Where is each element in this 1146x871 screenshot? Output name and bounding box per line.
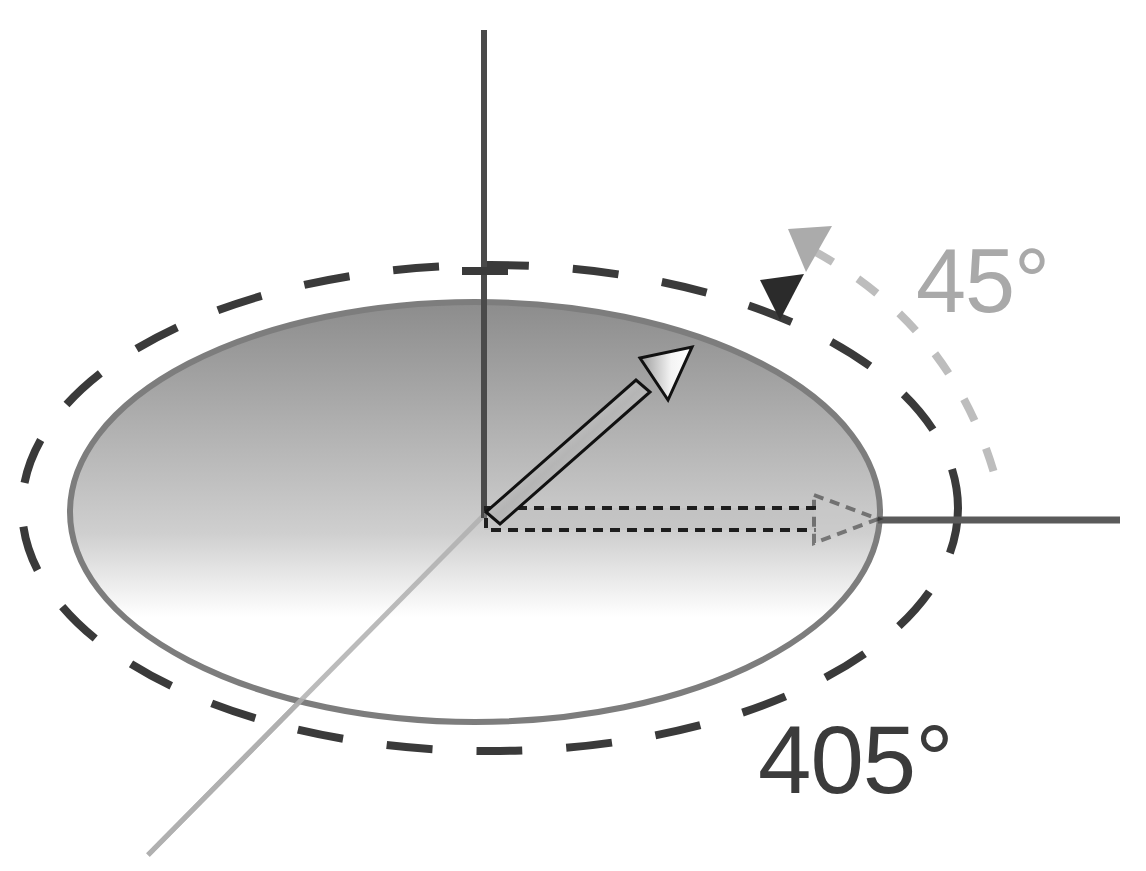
arc-45-arrowhead-icon [788, 226, 832, 272]
rotation-diagram [0, 0, 1146, 871]
angle-label-45: 45° [916, 236, 1049, 326]
angle-label-405: 405° [758, 712, 953, 808]
